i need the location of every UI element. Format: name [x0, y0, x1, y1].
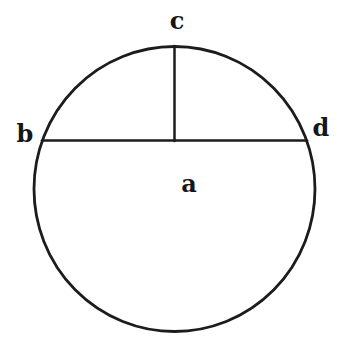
- label-chord-right-d: d: [313, 116, 330, 140]
- label-region-a: a: [181, 172, 197, 196]
- label-top-point-c: c: [170, 9, 185, 33]
- label-chord-left-b: b: [17, 122, 34, 146]
- figure-drawing: [0, 0, 339, 351]
- geometry-figure: c b d a: [0, 0, 339, 351]
